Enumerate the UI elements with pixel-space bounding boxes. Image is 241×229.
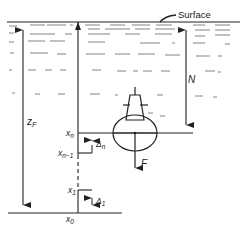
N-label: N xyxy=(188,74,196,85)
F-label: F xyxy=(141,158,148,169)
zF-label: zF xyxy=(26,116,37,128)
delta-1-label: Δ1 xyxy=(95,196,106,207)
x1-label: x1 xyxy=(67,185,76,196)
surface-label: Surface xyxy=(178,9,211,20)
surface-leader xyxy=(160,15,176,22)
delta-n-label: Δn xyxy=(95,139,106,150)
xn1-label: xn−1 xyxy=(57,148,74,159)
arrowhead-icon xyxy=(75,22,81,30)
xn-label: xn xyxy=(65,128,74,139)
submarine-depth-diagram: Surface zF N xn xn−1 x1 x0 Δn Δ1 F xyxy=(0,0,241,229)
x0-label: x0 xyxy=(65,214,74,225)
water-dashes xyxy=(9,25,230,116)
